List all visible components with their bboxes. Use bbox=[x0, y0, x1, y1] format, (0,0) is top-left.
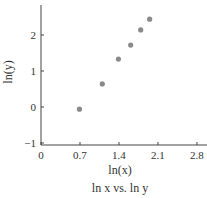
y-tick-label: 2 bbox=[31, 29, 37, 41]
data-point bbox=[138, 27, 143, 32]
y-tick-label: 1 bbox=[31, 65, 37, 77]
data-point bbox=[77, 107, 82, 112]
scatter-chart: 00.71.42.12.8 −1012 ln(x) ln(y) ln x vs.… bbox=[0, 0, 207, 198]
x-tick-label: 2.1 bbox=[151, 149, 165, 161]
x-tick-label: 1.4 bbox=[112, 149, 126, 161]
y-tick-label: 0 bbox=[31, 101, 37, 113]
data-point bbox=[128, 42, 133, 47]
axes bbox=[41, 5, 207, 145]
x-axis-title: ln(x) bbox=[108, 163, 131, 177]
chart-caption: ln x vs. ln y bbox=[92, 181, 148, 195]
data-point bbox=[100, 81, 105, 86]
data-points bbox=[77, 17, 152, 112]
x-tick-label: 2.8 bbox=[190, 149, 204, 161]
data-point bbox=[147, 17, 152, 22]
data-point bbox=[116, 57, 121, 62]
y-tick-label: −1 bbox=[24, 137, 36, 149]
x-tick-label: 0.7 bbox=[73, 149, 87, 161]
x-tick-label: 0 bbox=[38, 149, 44, 161]
y-axis-title: ln(y) bbox=[1, 60, 15, 83]
